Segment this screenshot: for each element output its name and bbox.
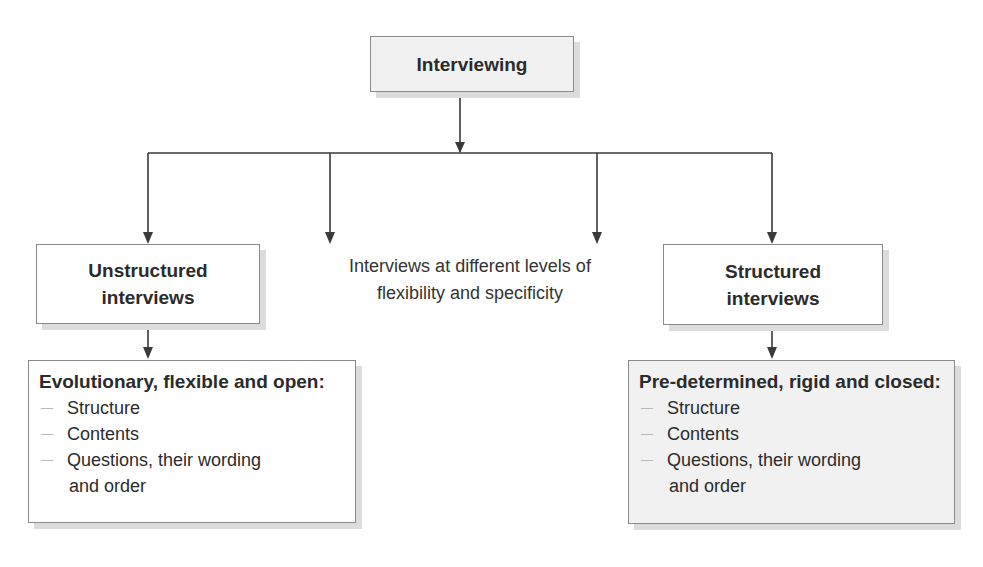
middle-note-line-1: Interviews at different levels of xyxy=(300,253,640,280)
list-item: — Contents xyxy=(39,421,345,447)
root-node-interviewing: Interviewing xyxy=(370,36,574,92)
structured-title-line-2: interviews xyxy=(727,285,820,312)
list-item-text: Contents xyxy=(667,421,739,447)
list-item-text: Contents xyxy=(67,421,139,447)
unstructured-interviews-node: Unstructured interviews xyxy=(36,244,260,324)
dash-bullet-icon: — xyxy=(639,421,667,447)
list-item: — Questions, their wording xyxy=(639,447,944,473)
list-item-continuation: and order xyxy=(639,473,944,499)
structured-detail-heading: Pre-determined, rigid and closed: xyxy=(639,369,944,395)
dash-bullet-icon: — xyxy=(39,421,67,447)
list-item-continuation: and order xyxy=(39,473,345,499)
middle-note-line-2: flexibility and specificity xyxy=(300,280,640,307)
structured-interviews-node: Structured interviews xyxy=(663,244,883,325)
list-item: — Structure xyxy=(39,395,345,421)
list-item-text: Questions, their wording xyxy=(667,447,861,473)
dash-bullet-icon: — xyxy=(639,447,667,473)
middle-note: Interviews at different levels of flexib… xyxy=(300,253,640,307)
unstructured-title-line-2: interviews xyxy=(102,284,195,311)
list-item: — Questions, their wording xyxy=(39,447,345,473)
dash-bullet-icon: — xyxy=(39,395,67,421)
list-item: — Structure xyxy=(639,395,944,421)
unstructured-detail-box: Evolutionary, flexible and open: — Struc… xyxy=(28,360,356,523)
root-label: Interviewing xyxy=(417,51,528,78)
structured-detail-box: Pre-determined, rigid and closed: — Stru… xyxy=(628,360,955,524)
structured-title-line-1: Structured xyxy=(725,258,821,285)
unstructured-title-line-1: Unstructured xyxy=(88,257,207,284)
dash-bullet-icon: — xyxy=(639,395,667,421)
list-item-text: Structure xyxy=(667,395,740,421)
list-item: — Contents xyxy=(639,421,944,447)
list-item-text: Structure xyxy=(67,395,140,421)
list-item-text: Questions, their wording xyxy=(67,447,261,473)
dash-bullet-icon: — xyxy=(39,447,67,473)
unstructured-detail-heading: Evolutionary, flexible and open: xyxy=(39,369,345,395)
